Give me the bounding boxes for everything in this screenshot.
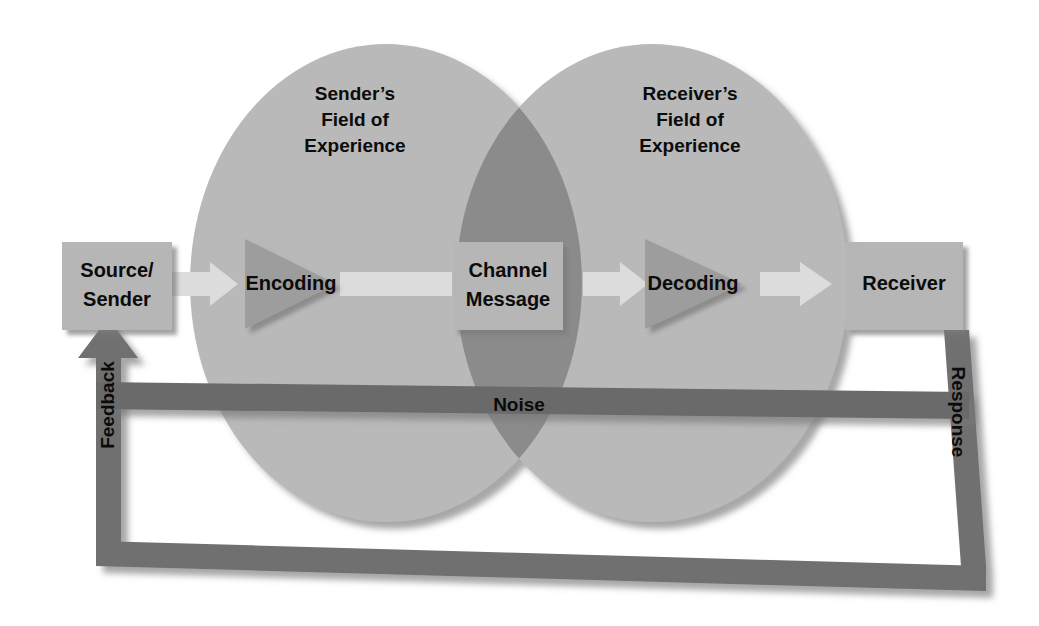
channel-message-node[interactable] — [453, 242, 563, 330]
flow-arrow-2 — [340, 272, 452, 296]
sender-field-line1: Sender’s — [315, 83, 395, 104]
sender-field-line2: Field of — [321, 109, 389, 130]
source-sender-node[interactable] — [62, 242, 172, 330]
decoding-label: Decoding — [647, 272, 738, 294]
source-sender-line2: Sender — [83, 288, 151, 310]
communication-model-svg: Sender’s Field of Experience Receiver’s … — [0, 0, 1039, 626]
sender-field-line3: Experience — [304, 135, 405, 156]
source-sender-box[interactable] — [62, 242, 172, 330]
channel-message-box[interactable] — [453, 242, 563, 330]
response-label: Response — [948, 367, 969, 458]
receiver-field-line2: Field of — [656, 109, 724, 130]
feedback-label: Feedback — [97, 361, 118, 449]
source-sender-line1: Source/ — [80, 259, 154, 281]
channel-message-line1: Channel — [469, 259, 548, 281]
noise-label: Noise — [493, 394, 545, 415]
receiver-label: Receiver — [862, 272, 946, 294]
receiver-field-line3: Experience — [639, 135, 740, 156]
receiver-field-line1: Receiver’s — [642, 83, 737, 104]
loop-bottom-bar — [96, 541, 986, 591]
encoding-label: Encoding — [245, 272, 336, 294]
diagram-canvas: Sender’s Field of Experience Receiver’s … — [0, 0, 1039, 626]
channel-message-line2: Message — [466, 288, 551, 310]
